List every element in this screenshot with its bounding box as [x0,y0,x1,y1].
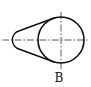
cam-profile-drawing [0,0,91,87]
view-label: B [53,72,65,85]
